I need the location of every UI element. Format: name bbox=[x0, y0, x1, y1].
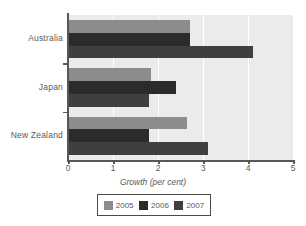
legend-label-2006: 2006 bbox=[151, 201, 169, 210]
y-axis-line bbox=[67, 13, 69, 162]
bar-australia-2007 bbox=[68, 46, 253, 59]
bar-new-zealand-2007 bbox=[68, 142, 208, 155]
x-tick-label-0: 0 bbox=[66, 163, 71, 173]
chart-legend: 200520062007 bbox=[97, 194, 211, 216]
x-axis-line bbox=[67, 160, 294, 162]
legend-swatch-2006 bbox=[139, 201, 148, 210]
legend-item-2007[interactable]: 2007 bbox=[174, 201, 204, 210]
x-tick-label-5: 5 bbox=[291, 163, 296, 173]
x-tick-label-1: 1 bbox=[111, 163, 116, 173]
legend-item-2005[interactable]: 2005 bbox=[104, 201, 134, 210]
x-tick-label-2: 2 bbox=[156, 163, 161, 173]
category-label-japan: Japan bbox=[39, 82, 63, 92]
y-tick-1 bbox=[63, 63, 68, 65]
legend-label-2005: 2005 bbox=[116, 201, 134, 210]
legend-item-2006[interactable]: 2006 bbox=[139, 201, 169, 210]
gridline-3 bbox=[203, 15, 204, 160]
y-tick-2 bbox=[63, 112, 68, 114]
bar-new-zealand-2005 bbox=[68, 117, 187, 130]
bar-australia-2006 bbox=[68, 33, 190, 46]
bar-australia-2005 bbox=[68, 20, 190, 33]
x-tick-label-3: 3 bbox=[201, 163, 206, 173]
legend-label-2007: 2007 bbox=[186, 201, 204, 210]
gridline-5 bbox=[293, 15, 294, 160]
bar-japan-2007 bbox=[68, 94, 149, 107]
legend-swatch-2007 bbox=[174, 201, 183, 210]
gridline-4 bbox=[248, 15, 249, 160]
x-tick-label-4: 4 bbox=[246, 163, 251, 173]
bar-japan-2005 bbox=[68, 68, 151, 81]
category-label-new-zealand: New Zealand bbox=[11, 130, 63, 140]
category-label-australia: Australia bbox=[28, 33, 63, 43]
bar-new-zealand-2006 bbox=[68, 129, 149, 142]
bar-japan-2006 bbox=[68, 81, 176, 94]
bar-chart-figure: 012345 AustraliaJapanNew Zealand Growth … bbox=[0, 0, 306, 226]
legend-swatch-2005 bbox=[104, 201, 113, 210]
x-axis-title: Growth (per cent) bbox=[0, 177, 306, 187]
